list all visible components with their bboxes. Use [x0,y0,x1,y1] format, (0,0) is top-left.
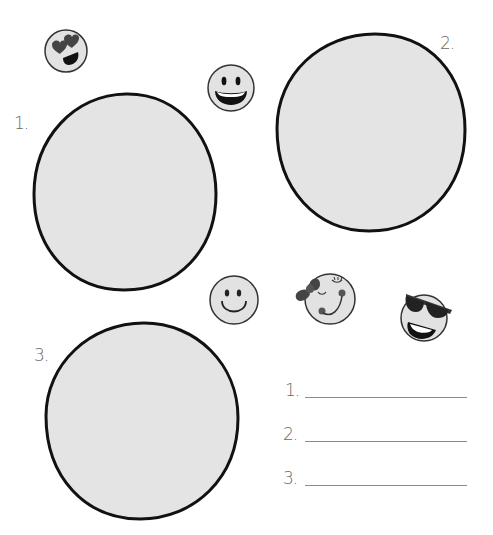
answer-3-line[interactable] [305,485,467,486]
answer-1-line[interactable] [305,397,467,398]
circle-3-drawing-area[interactable] [42,320,242,524]
grinning-emoji-icon [205,62,257,114]
winking-bow-emoji-icon [290,270,358,328]
answer-3-label: 3. [283,468,297,488]
circle-1-label: 1. [14,113,28,133]
heart-eyes-emoji-icon [42,27,90,75]
answer-2-line[interactable] [305,441,467,442]
answer-1-label: 1. [285,380,299,400]
circle-1-drawing-area[interactable] [30,90,222,295]
circle-2-drawing-area[interactable] [273,30,470,236]
smiling-emoji-icon [208,273,262,327]
sunglasses-emoji-icon [398,288,458,344]
answer-2-label: 2. [283,424,297,444]
